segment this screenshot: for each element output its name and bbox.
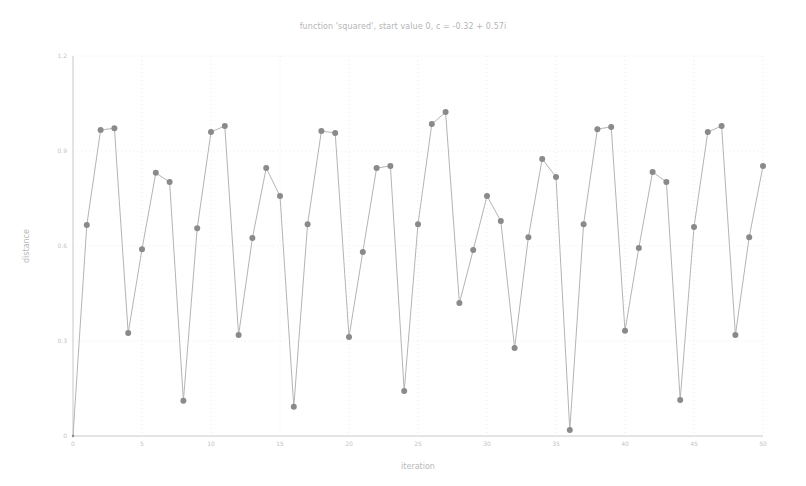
data-point	[732, 332, 738, 338]
y-tick-label: 1.2	[57, 52, 67, 59]
line-chart: 05101520253035404550 00.30.60.91.2	[0, 0, 806, 486]
data-point	[263, 165, 269, 171]
data-point	[512, 345, 518, 351]
x-tick-label: 45	[690, 440, 698, 447]
x-tick-label: 20	[345, 440, 353, 447]
data-point	[760, 163, 766, 169]
y-tick-label: 0.3	[57, 337, 67, 344]
x-tick-label: 50	[759, 440, 767, 447]
data-point	[111, 125, 117, 131]
data-point	[498, 218, 504, 224]
y-tick-label: 0.6	[57, 242, 67, 249]
data-point	[594, 126, 600, 132]
data-point	[72, 435, 74, 437]
data-point	[346, 334, 352, 340]
data-point	[249, 235, 255, 241]
data-series	[72, 109, 766, 437]
data-point	[194, 225, 200, 231]
gridlines	[73, 56, 763, 436]
y-axis-ticks: 00.30.60.91.2	[57, 52, 67, 439]
data-point	[291, 404, 297, 410]
data-point	[167, 179, 173, 185]
data-point	[691, 224, 697, 230]
data-point	[153, 170, 159, 176]
data-point	[318, 128, 324, 134]
x-tick-label: 5	[140, 440, 144, 447]
data-point	[677, 397, 683, 403]
data-point	[663, 179, 669, 185]
data-point	[456, 300, 462, 306]
data-point	[401, 388, 407, 394]
data-point	[429, 121, 435, 127]
x-tick-label: 25	[414, 440, 422, 447]
data-point	[608, 124, 614, 130]
data-point	[236, 332, 242, 338]
x-tick-label: 10	[207, 440, 215, 447]
data-point	[581, 221, 587, 227]
x-tick-label: 40	[621, 440, 629, 447]
data-point	[567, 427, 573, 433]
x-tick-label: 0	[71, 440, 75, 447]
data-point	[222, 123, 228, 129]
data-point	[98, 127, 104, 133]
data-point	[387, 163, 393, 169]
x-tick-label: 30	[483, 440, 491, 447]
data-point	[180, 398, 186, 404]
data-point	[636, 245, 642, 251]
data-point	[746, 234, 752, 240]
y-tick-label: 0.9	[57, 147, 67, 154]
data-point	[84, 222, 90, 228]
data-point	[332, 130, 338, 136]
data-point	[650, 169, 656, 175]
data-point	[484, 193, 490, 199]
data-point	[277, 193, 283, 199]
data-point	[525, 234, 531, 240]
data-point	[360, 249, 366, 255]
y-tick-label: 0	[63, 432, 67, 439]
data-point	[705, 129, 711, 135]
x-tick-label: 15	[276, 440, 284, 447]
data-point	[139, 246, 145, 252]
data-point	[443, 109, 449, 115]
data-point	[470, 247, 476, 253]
data-point	[374, 165, 380, 171]
data-point	[719, 123, 725, 129]
x-axis-ticks: 05101520253035404550	[71, 440, 767, 447]
data-point	[305, 221, 311, 227]
x-tick-label: 35	[552, 440, 560, 447]
data-point	[125, 330, 131, 336]
data-point	[208, 129, 214, 135]
data-point	[622, 328, 628, 334]
data-point	[553, 174, 559, 180]
data-point	[415, 221, 421, 227]
data-point	[539, 156, 545, 162]
